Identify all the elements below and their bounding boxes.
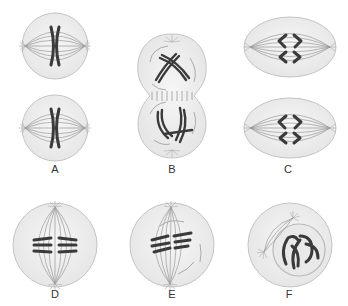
panel-a xyxy=(19,13,91,161)
panel-label-e: E xyxy=(168,288,175,300)
panel-e xyxy=(130,201,214,290)
cell-a-top xyxy=(19,13,91,79)
panel-label-b: B xyxy=(168,163,175,175)
cell-a-bottom xyxy=(19,95,91,161)
panel-d xyxy=(13,201,97,290)
cell-division-diagram xyxy=(0,0,348,306)
panel-c xyxy=(244,17,336,158)
panel-label-d: D xyxy=(51,288,59,300)
panel-f xyxy=(248,203,332,287)
panel-b xyxy=(138,34,206,158)
panel-label-f: F xyxy=(286,288,293,300)
cell-c-bottom xyxy=(244,98,336,158)
cell-c-top xyxy=(244,17,336,77)
panel-label-a: A xyxy=(51,163,58,175)
panel-label-c: C xyxy=(284,163,292,175)
